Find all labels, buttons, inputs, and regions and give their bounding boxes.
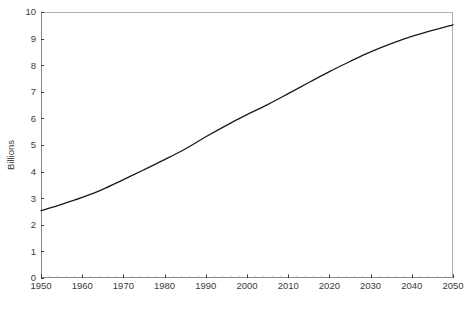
y-axis-tick-label: 8 bbox=[31, 60, 36, 71]
x-axis-tick-label: 1950 bbox=[30, 280, 51, 291]
x-axis-tick-label: 2000 bbox=[236, 280, 257, 291]
y-axis-tick-label: 5 bbox=[31, 139, 36, 150]
x-axis-tick-label: 1980 bbox=[154, 280, 175, 291]
x-axis-tick-label: 1970 bbox=[113, 280, 134, 291]
x-axis-tick-label: 2010 bbox=[278, 280, 299, 291]
y-axis-title: Billions bbox=[5, 140, 16, 170]
x-axis-tick-label: 2020 bbox=[319, 280, 340, 291]
y-axis-tick-label: 3 bbox=[31, 193, 36, 204]
population-line-chart: 012345678910 195019601970198019902000201… bbox=[0, 0, 473, 309]
x-axis-tick-label: 2050 bbox=[442, 280, 463, 291]
y-axis-tick-label: 6 bbox=[31, 113, 36, 124]
y-axis-tick-label: 4 bbox=[31, 166, 36, 177]
x-axis-tick-label: 2040 bbox=[401, 280, 422, 291]
x-axis-tick-label: 1960 bbox=[72, 280, 93, 291]
y-axis-tick-label: 2 bbox=[31, 219, 36, 230]
y-axis-tick-label: 9 bbox=[31, 33, 36, 44]
chart-canvas: 012345678910 195019601970198019902000201… bbox=[0, 0, 473, 309]
y-axis-tick-label: 1 bbox=[31, 246, 36, 257]
x-axis-tick-label: 1990 bbox=[195, 280, 216, 291]
y-axis-tick-label: 10 bbox=[25, 6, 36, 17]
x-axis-tick-label: 2030 bbox=[360, 280, 381, 291]
plot-area-background bbox=[41, 12, 453, 278]
y-axis-tick-label: 7 bbox=[31, 86, 36, 97]
